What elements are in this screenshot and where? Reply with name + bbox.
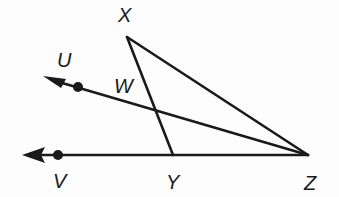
segment-xy [127,37,173,155]
point-u-dot [73,82,83,92]
segment-xz [127,37,308,155]
label-y: Y [166,171,181,193]
geometry-diagram: X U W V Y Z [0,0,339,197]
label-v: V [53,170,68,192]
point-v-dot [53,150,63,160]
diagram-svg: X U W V Y Z [0,0,339,197]
label-w: W [114,75,135,97]
ray-zu [52,80,308,155]
label-u: U [57,49,72,71]
label-x: X [117,4,132,26]
arrowhead-u-icon [43,76,66,88]
label-z: Z [303,172,317,194]
